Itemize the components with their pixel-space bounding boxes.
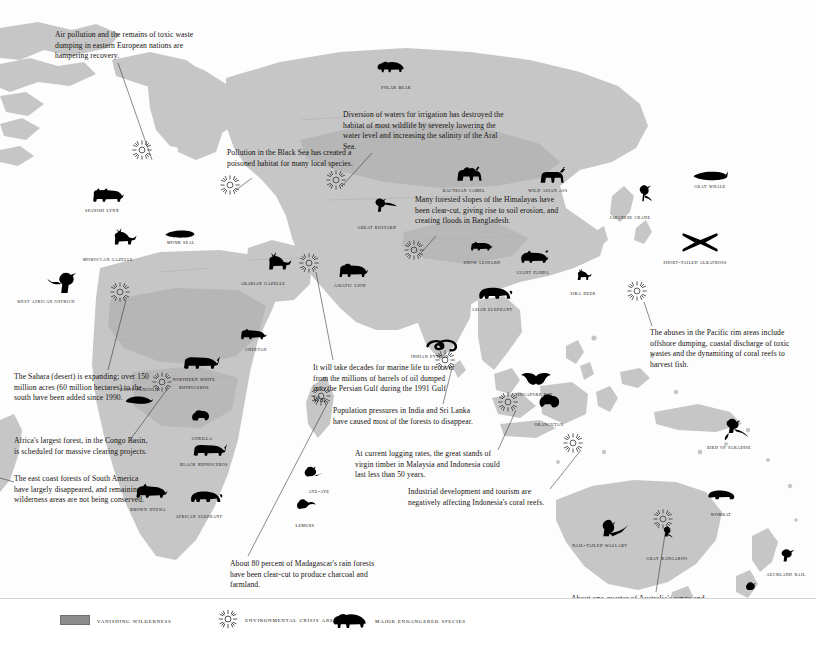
legend-item-vanishing-wilderness: Vanishing Wilderness <box>60 615 172 625</box>
aye-aye-silhouette-icon <box>300 465 327 478</box>
map-legend: Vanishing Wilderness Environmental Crisi… <box>0 598 816 657</box>
northern-white-rhinoceros-silhouette-icon <box>180 352 220 371</box>
great-bustard-silhouette-icon <box>366 196 401 213</box>
species-label-wombat: Wombat <box>697 510 745 518</box>
annotation-india-sri-lanka: Population pressures in India and Sri La… <box>333 406 483 427</box>
japanese-crane-silhouette-icon <box>626 184 663 202</box>
bear-silhouette-icon <box>330 612 368 629</box>
bactrian-camel-silhouette-icon <box>452 165 490 183</box>
west-african-ostrich-silhouette-icon <box>40 270 93 295</box>
annotation-malaysia-indonesia: At current logging rates, the great stan… <box>355 449 501 481</box>
crisis-pacific-sunburst-icon <box>626 280 648 302</box>
bird-of-paradise-silhouette-icon <box>712 417 754 437</box>
species-label-west-african-ostrich: West African Ostrich <box>3 297 89 305</box>
species-label-spanish-lynx: Spanish Lynx <box>72 206 132 214</box>
species-label-aye-aye: Aye-aye <box>297 487 341 495</box>
species-label-cheetah: Cheetah <box>232 345 280 353</box>
crisis-indonesia-sunburst-icon <box>562 432 584 454</box>
crisis-sahara-sunburst-icon <box>109 281 131 303</box>
snow-leopard-silhouette-icon <box>468 240 493 252</box>
species-label-brown-hyena: Brown Hyena <box>118 505 178 513</box>
gorilla-silhouette-icon <box>188 408 215 421</box>
annotation-south-america-east-coast: The east coast forests of South America … <box>14 474 154 506</box>
world-map: Polar BearSpanish LynxMoroccan GazelleMo… <box>0 0 816 657</box>
crisis-himalaya-sunburst-icon <box>403 239 425 261</box>
annotation-aral-sea: Diversion of waters for irrigation has d… <box>343 110 510 152</box>
species-label-snow-leopard: Snow Leopard <box>462 258 502 266</box>
species-label-arabian-gazelle: Arabian Gazelle <box>228 279 298 287</box>
arabian-gazelle-silhouette-icon <box>252 251 295 272</box>
crisis-black-sea-sunburst-icon <box>219 174 241 196</box>
orangutan-silhouette-icon <box>534 392 567 408</box>
moroccan-gazelle-silhouette-icon <box>98 227 140 247</box>
species-label-asiatic-lion: Asiatic Lion <box>322 281 378 289</box>
species-label-japanese-crane: Japanese Crane <box>600 213 660 221</box>
species-label-gray-kangaroo: Gray Kangaroo <box>646 554 688 562</box>
species-label-northern-white-rhinoceros: Northern White Rhinoceros <box>162 375 226 390</box>
crisis-aral-sunburst-icon <box>325 169 347 191</box>
singapore-bat-silhouette-icon <box>520 372 552 387</box>
species-label-sika-deer: Sika Deer <box>561 289 605 297</box>
crisis-persian-gulf-sunburst-icon <box>298 252 320 274</box>
species-label-short-tailed-albatross: Short-tailed Albatross <box>662 258 728 266</box>
spanish-lynx-silhouette-icon <box>88 186 125 204</box>
species-label-gray-whale: Gray Whale <box>681 182 739 190</box>
cheetah-silhouette-icon <box>238 327 268 341</box>
asian-elephant-silhouette-icon <box>476 283 514 301</box>
black-rhinoceros-silhouette-icon <box>190 440 227 458</box>
asiatic-lion-silhouette-icon <box>334 262 369 279</box>
annotation-himalayas: Many forested slopes of the Himalayas ha… <box>415 195 565 227</box>
polar-bear-silhouette-icon <box>376 60 405 74</box>
species-label-wild-asian-ass: Wild Asian Ass <box>518 186 578 194</box>
annotation-madagascar: About 80 percent of Madagascar's rain fo… <box>230 559 380 591</box>
species-label-auckland-rail: Auckland Rail <box>762 570 810 578</box>
legend-label-environmental-crisis-area: Environmental Crisis Area <box>245 616 338 623</box>
wild-asian-ass-silhouette-icon <box>534 167 571 185</box>
legend-label-vanishing-wilderness: Vanishing Wilderness <box>97 617 172 624</box>
short-tailed-albatross-silhouette-icon <box>680 232 721 252</box>
species-label-orangutan: Orangutan <box>522 420 576 428</box>
annotation-sahara: The Sahara (desert) is expanding; over 1… <box>14 372 156 404</box>
legend-item-major-endangered-species: Major Endangered Species <box>330 612 466 629</box>
species-label-nail-tailed-wallaby: Nail-tailed Wallaby <box>563 541 637 549</box>
annotation-indonesia-coral: Industrial development and tourism are n… <box>408 487 560 508</box>
annotation-pacific-rim: The abuses in the Pacific rim areas incl… <box>650 328 808 370</box>
giant-panda-silhouette-icon <box>518 248 551 264</box>
species-label-bird-of-paradise: Bird of Paradise <box>695 443 763 451</box>
lemurs-silhouette-icon <box>292 497 319 510</box>
species-label-bactrian-camel: Bactrian Camel <box>433 186 495 194</box>
sunburst-icon <box>218 609 238 629</box>
legend-label-major-endangered-species: Major Endangered Species <box>375 617 466 624</box>
annotation-persian-gulf: It will take decades for marine life to … <box>313 363 459 405</box>
legend-item-environmental-crisis-area: Environmental Crisis Area <box>218 609 338 629</box>
species-label-indian-python: Indian Python <box>402 352 458 360</box>
species-label-african-elephant: African Elephant <box>170 512 228 520</box>
wombat-silhouette-icon <box>706 487 736 501</box>
species-label-lemurs: Lemurs <box>283 521 327 529</box>
nail-tailed-wallaby-silhouette-icon <box>585 517 631 539</box>
species-label-asian-elephant: Asian Elephant <box>461 305 523 313</box>
species-label-great-bustard: Great Bustard <box>349 223 405 231</box>
species-label-giant-panda: Giant Panda <box>506 268 560 276</box>
gray-kangaroo-silhouette-icon <box>656 525 682 537</box>
annotation-eastern-europe: Air pollution and the remains of toxic w… <box>55 30 215 62</box>
auckland-rail-silhouette-icon <box>774 548 804 562</box>
indian-python-silhouette-icon <box>424 336 459 353</box>
african-elephant-silhouette-icon <box>188 487 224 504</box>
species-label-polar-bear: Polar Bear <box>373 83 419 91</box>
species-label-monk-seal: Monk Seal <box>156 238 206 246</box>
species-label-moroccan-gazelle: Moroccan Gazelle <box>74 255 142 263</box>
species-label-black-rhinoceros: Black Rhinoceros <box>174 460 234 468</box>
crisis-europe-sunburst-icon <box>131 139 153 161</box>
wilderness-swatch-icon <box>60 615 90 625</box>
annotation-congo-basin: Africa's largest forest, in the Congo Ba… <box>14 436 154 457</box>
takahe-silhouette-icon <box>742 580 764 591</box>
annotation-black-sea: Pollution in the Black Sea has created a… <box>227 148 367 169</box>
sika-deer-silhouette-icon <box>568 268 595 281</box>
